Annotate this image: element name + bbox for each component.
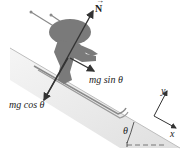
coordinate-axes [154, 91, 176, 128]
normal-force-label: → N [95, 3, 102, 14]
y-axis-label: y [161, 85, 165, 96]
theta-label: θ [123, 125, 128, 136]
x-axis-label: x [170, 128, 174, 139]
mg-cos-label: mg cos θ [9, 99, 44, 110]
free-body-diagram: → N mg sin θ mg cos θ y x θ [0, 0, 187, 155]
vector-arrow-icon: → [96, 0, 104, 5]
mg-sin-label: mg sin θ [89, 74, 123, 85]
